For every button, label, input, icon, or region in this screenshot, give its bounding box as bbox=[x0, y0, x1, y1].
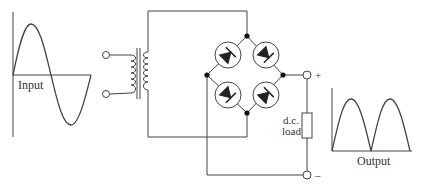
bridge-rectifier-diagram: Input Output d.c. load + – bbox=[0, 0, 426, 188]
primary-terminal-bottom bbox=[103, 91, 110, 98]
negative-terminal bbox=[303, 171, 311, 179]
plus-label: + bbox=[315, 69, 321, 81]
wire-bottom bbox=[148, 113, 247, 137]
input-label: Input bbox=[18, 78, 44, 92]
positive-terminal bbox=[303, 71, 311, 79]
diode-bottom-left bbox=[215, 82, 241, 108]
output-waveform bbox=[332, 88, 412, 151]
primary-terminal-top bbox=[103, 52, 110, 59]
output-rectified-curve bbox=[332, 99, 410, 151]
output-label: Output bbox=[357, 154, 391, 168]
primary-coil bbox=[110, 55, 136, 94]
load-resistor bbox=[302, 113, 312, 138]
input-waveform bbox=[13, 12, 91, 137]
diode-bottom-right bbox=[253, 82, 279, 108]
secondary-coil bbox=[144, 11, 149, 137]
diode-top-left bbox=[215, 42, 241, 68]
transformer bbox=[103, 11, 149, 137]
minus-label: – bbox=[314, 169, 321, 181]
wire-top bbox=[148, 11, 247, 36]
diode-top-right bbox=[253, 42, 279, 68]
load-label-line2: load bbox=[282, 125, 301, 137]
